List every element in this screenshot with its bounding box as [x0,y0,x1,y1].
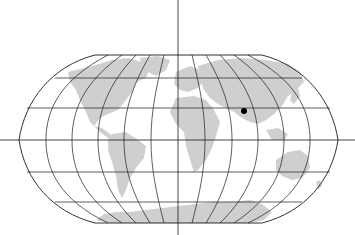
land-south-america [108,132,146,198]
world-map [0,0,355,235]
land-africa [170,96,220,172]
land-se-asia [266,128,288,140]
meridian-w30 [151,55,164,223]
location-marker [241,108,247,114]
land-antarctica [96,200,272,223]
